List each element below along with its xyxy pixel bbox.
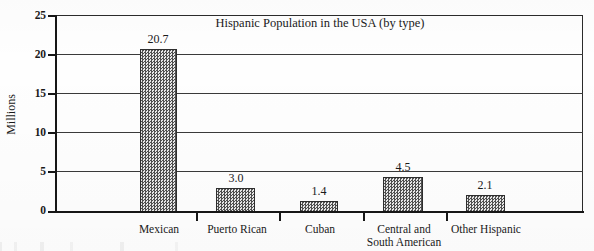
- y-tick-label-5: 5: [6, 166, 46, 178]
- y-tick-label-25: 25: [6, 10, 46, 22]
- x-category-line: South American: [349, 236, 459, 249]
- x-axis-line: [55, 211, 584, 213]
- gridline-15: [56, 93, 583, 94]
- bar-value-mexican: 20.7: [123, 33, 193, 45]
- scan-artifact-strip: [0, 242, 594, 251]
- bar-value-central-south-american: 4.5: [368, 161, 438, 173]
- gridline-5: [56, 171, 583, 172]
- x-tick-separator-3: [363, 212, 365, 221]
- x-category-line: Other Hispanic: [431, 223, 541, 236]
- y-tick-label-20: 20: [6, 49, 46, 61]
- x-category-label-other-hispanic: Other Hispanic: [431, 223, 541, 236]
- bar-value-cuban: 1.4: [284, 185, 354, 197]
- bar-central-south-american[interactable]: [383, 177, 423, 212]
- gridline-10: [56, 132, 583, 133]
- y-tick-label-15: 15: [6, 88, 46, 100]
- y-axis-title: Millions: [4, 75, 19, 155]
- x-tick-separator-2: [279, 212, 281, 221]
- y-tick-label-0: 0: [6, 205, 46, 217]
- x-tick-separator-1: [196, 212, 198, 221]
- bar-chart-screenshot: Millions Hispanic Population in the USA …: [0, 0, 594, 251]
- bar-value-puerto-rican: 3.0: [201, 172, 271, 184]
- y-axis-line: [55, 15, 57, 213]
- bar-other-hispanic[interactable]: [466, 195, 505, 212]
- bar-mexican[interactable]: [140, 49, 177, 212]
- gridline-20: [56, 54, 583, 55]
- bar-puerto-rican[interactable]: [216, 188, 255, 212]
- y-tick-label-10: 10: [6, 127, 46, 139]
- x-tick-separator-4: [446, 212, 448, 221]
- bar-value-other-hispanic: 2.1: [450, 179, 520, 191]
